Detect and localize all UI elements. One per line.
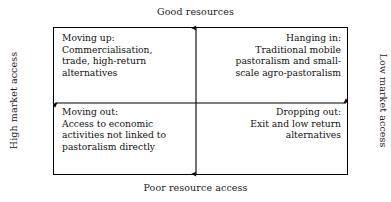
quadrant-hanging-in: Hanging in: Traditional mobile pastorali…: [205, 32, 341, 78]
axis-label-bottom: Poor resource access: [0, 182, 391, 193]
axis-label-left: High market access: [8, 26, 19, 176]
axis-label-right: Low market access: [378, 26, 389, 176]
axis-label-top: Good resources: [0, 6, 391, 17]
quadrant-moving-out: Moving out: Access to economic activitie…: [62, 106, 194, 152]
quadrant-moving-up: Moving up: Commercialisation, trade, hig…: [62, 32, 190, 78]
quadrant-diagram: Good resources Poor resource access High…: [0, 0, 391, 202]
quadrant-dropping-out: Dropping out: Exit and low return altern…: [205, 106, 341, 141]
